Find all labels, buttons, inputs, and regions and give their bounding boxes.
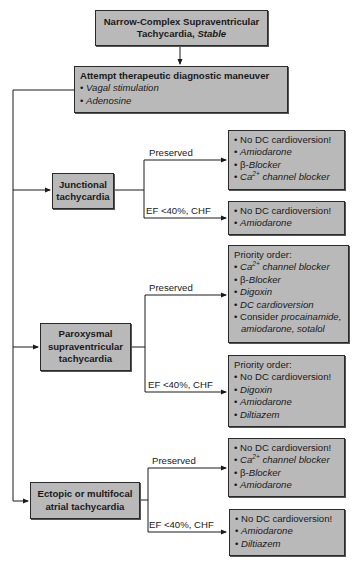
- title-box: Narrow-Complex Supraventricular Tachycar…: [95, 10, 268, 46]
- junctional-preserved-box: • No DC cardioversion! • Amiodarone • β-…: [228, 130, 345, 190]
- title-line2: Tachycardia, Stable: [137, 28, 226, 40]
- maneuver-item: • Adenosine: [80, 95, 282, 107]
- junctional-box: Junctional tachycardia: [52, 173, 114, 209]
- title-line1: Narrow-Complex Supraventricular: [104, 16, 260, 28]
- psvt-box: Paroxysmal supraventricular tachycardia: [40, 323, 131, 371]
- ectopic-ef-label: EF <40%, CHF: [149, 519, 214, 530]
- ectopic-box: Ectopic or multifocal atrial tachycardia: [30, 482, 140, 519]
- psvt-preserved-label: Preserved: [149, 282, 193, 293]
- psvt-ef-label: EF <40%, CHF: [148, 379, 213, 390]
- ectopic-preserved-box: • No DC cardioversion! • Ca2+ channel bl…: [228, 438, 345, 497]
- ectopic-preserved-label: Preserved: [152, 455, 196, 466]
- maneuver-item: • Vagal stimulation: [80, 82, 282, 94]
- maneuver-heading: Attempt therapeutic diagnostic maneuver: [80, 70, 282, 82]
- junctional-ef-label: EF <40%, CHF: [146, 205, 211, 216]
- junctional-preserved-label: Preserved: [149, 147, 193, 158]
- ectopic-ef-box: • No DC cardioversion! • Amiodarone • Di…: [229, 509, 345, 556]
- maneuver-box: Attempt therapeutic diagnostic maneuver …: [74, 66, 288, 113]
- psvt-ef-box: Priority order: • No DC cardioversion! •…: [228, 355, 345, 427]
- junctional-ef-box: • No DC cardioversion! • Amiodarone: [228, 201, 345, 235]
- psvt-preserved-box: Priority order: • Ca2+ channel blocker •…: [228, 245, 349, 343]
